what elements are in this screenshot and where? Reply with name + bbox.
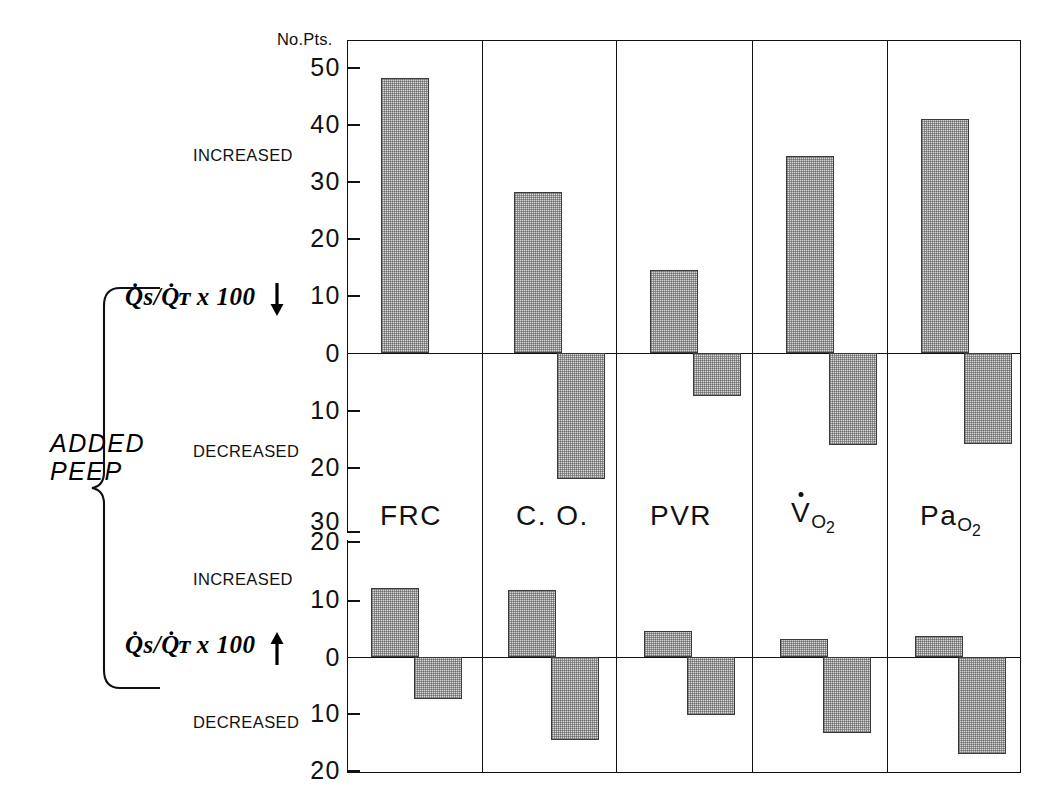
added-peep-label: ADDED PEEP	[50, 429, 145, 485]
upper-tick-30	[347, 181, 360, 183]
upper-tick-label-30: 30	[281, 169, 341, 194]
bar-upper-pvr-decreased	[693, 353, 741, 396]
category-label-vo2-sub: O2	[811, 511, 835, 532]
upper-tick-neg10	[347, 410, 360, 412]
lower-ratio-text: Q̇s/Q̇ᴛ x 100	[125, 631, 256, 658]
upper-tick-label-0: 0	[281, 341, 341, 366]
upper-ratio-down-arrow-icon	[267, 283, 287, 317]
category-label-pvr: PVR	[650, 500, 712, 532]
lower-ratio-label: Q̇s/Q̇ᴛ x 100	[125, 631, 256, 659]
bar-upper-co-decreased	[557, 353, 605, 479]
panel-divider-3	[752, 40, 753, 773]
bar-lower-frc-decreased	[414, 657, 462, 699]
lower-decreased-caption: DECREASED	[193, 713, 299, 732]
added-peep-line1: ADDED	[50, 429, 145, 457]
lower-tick-label-neg20: 20	[281, 758, 341, 783]
bar-lower-pvr-increased	[644, 631, 692, 657]
plot-frame-left-upper	[347, 40, 348, 532]
upper-increased-caption: INCREASED	[193, 146, 293, 165]
category-label-vo2-text: V	[791, 497, 811, 529]
bar-upper-pvr-increased	[650, 270, 698, 353]
plot-frame-bottom	[347, 772, 1021, 773]
category-label-frc: FRC	[380, 500, 442, 532]
bar-lower-vo2-increased	[780, 639, 828, 657]
plot-frame-top	[347, 40, 1021, 41]
bar-upper-frc-increased	[381, 78, 429, 353]
panel-divider-2	[616, 40, 617, 773]
upper-tick-50	[347, 67, 360, 69]
lower-tick-10	[347, 600, 360, 602]
upper-tick-neg20	[347, 467, 360, 469]
lower-tick-label-0: 0	[281, 645, 341, 670]
category-label-co: C. O.	[516, 500, 589, 532]
bar-lower-frc-increased	[371, 588, 419, 657]
bar-upper-co-increased	[514, 192, 562, 353]
bar-lower-co-increased	[508, 590, 556, 657]
bar-lower-pao2-increased	[915, 636, 963, 657]
lower-increased-caption: INCREASED	[193, 570, 293, 589]
category-label-frc-text: FRC	[380, 500, 442, 531]
lower-tick-neg10	[347, 713, 360, 715]
panel-divider-4	[887, 40, 888, 773]
category-label-pao2-sub: O2	[957, 514, 981, 535]
upper-tick-label-10: 10	[281, 283, 341, 308]
bar-upper-pao2-increased	[921, 119, 969, 353]
bar-lower-pvr-decreased	[687, 657, 735, 715]
bar-upper-vo2-increased	[786, 156, 834, 353]
upper-tick-label-50: 50	[281, 55, 341, 80]
bar-upper-pao2-decreased	[964, 353, 1012, 444]
upper-tick-label-neg10: 10	[281, 398, 341, 423]
lower-tick-neg20	[347, 770, 360, 772]
upper-tick-neg30	[347, 531, 360, 533]
bar-lower-co-decreased	[551, 657, 599, 740]
category-label-vo2: VO2	[791, 497, 835, 537]
panel-divider-1	[482, 40, 483, 773]
upper-tick-label-40: 40	[281, 112, 341, 137]
axis-units-caption: No.Pts.	[277, 30, 333, 49]
plot-frame-right	[1020, 40, 1021, 773]
lower-tick-label-10: 10	[281, 587, 341, 612]
lower-tick-20	[347, 541, 360, 543]
upper-ratio-label: Q̇s/Q̇ᴛ x 100	[125, 283, 256, 311]
category-label-pao2: PaO2	[920, 500, 981, 540]
lower-ratio-up-arrow-icon	[267, 631, 287, 665]
upper-ratio-text: Q̇s/Q̇ᴛ x 100	[125, 283, 256, 310]
upper-tick-10	[347, 295, 360, 297]
bar-upper-vo2-decreased	[829, 353, 877, 445]
upper-tick-20	[347, 238, 360, 240]
bar-lower-vo2-decreased	[823, 657, 871, 733]
bar-lower-pao2-decreased	[958, 657, 1006, 754]
category-label-pvr-text: PVR	[650, 500, 712, 531]
upper-zero-line	[347, 353, 1021, 354]
lower-tick-label-20: 20	[281, 529, 341, 554]
upper-decreased-caption: DECREASED	[193, 442, 299, 461]
category-label-pao2-text: Pa	[920, 500, 957, 531]
category-label-co-text: C. O.	[516, 500, 589, 531]
upper-tick-40	[347, 124, 360, 126]
chart-canvas: No.Pts. 50 40 30 20 10 0 10 20 30 INCREA…	[0, 0, 1057, 807]
added-peep-line2: PEEP	[50, 457, 123, 485]
upper-tick-label-20: 20	[281, 226, 341, 251]
